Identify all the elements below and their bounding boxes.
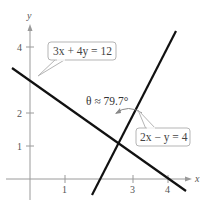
x-ticks: 1 3 4 bbox=[62, 175, 170, 195]
x-tick-label: 1 bbox=[62, 184, 67, 195]
y-ticks: 1 2 4 bbox=[17, 42, 34, 152]
two-lines-angle-diagram: x y 1 3 4 1 2 4 3x + 4y = 12 bbox=[0, 0, 203, 207]
y-tick-label: 4 bbox=[17, 42, 22, 53]
y-tick-label: 1 bbox=[17, 141, 22, 152]
equation-label-1: 3x + 4y = 12 bbox=[53, 45, 112, 58]
x-tick-label: 4 bbox=[165, 184, 170, 195]
angle-annotation: θ ≈ 79.7° bbox=[86, 95, 129, 107]
y-axis: y bbox=[26, 10, 33, 200]
y-axis-arrow-icon bbox=[28, 24, 33, 31]
x-tick-label: 3 bbox=[130, 184, 135, 195]
y-tick-label: 2 bbox=[17, 108, 22, 119]
y-axis-label: y bbox=[26, 10, 32, 21]
callout-equation-1: 3x + 4y = 12 bbox=[38, 42, 116, 76]
x-axis-label: x bbox=[194, 173, 200, 184]
angle-arc-arrow-icon bbox=[115, 108, 121, 114]
x-axis-arrow-icon bbox=[185, 177, 192, 182]
equation-label-2: 2x − y = 4 bbox=[140, 131, 188, 144]
callout-equation-2: 2x − y = 4 bbox=[136, 110, 190, 146]
